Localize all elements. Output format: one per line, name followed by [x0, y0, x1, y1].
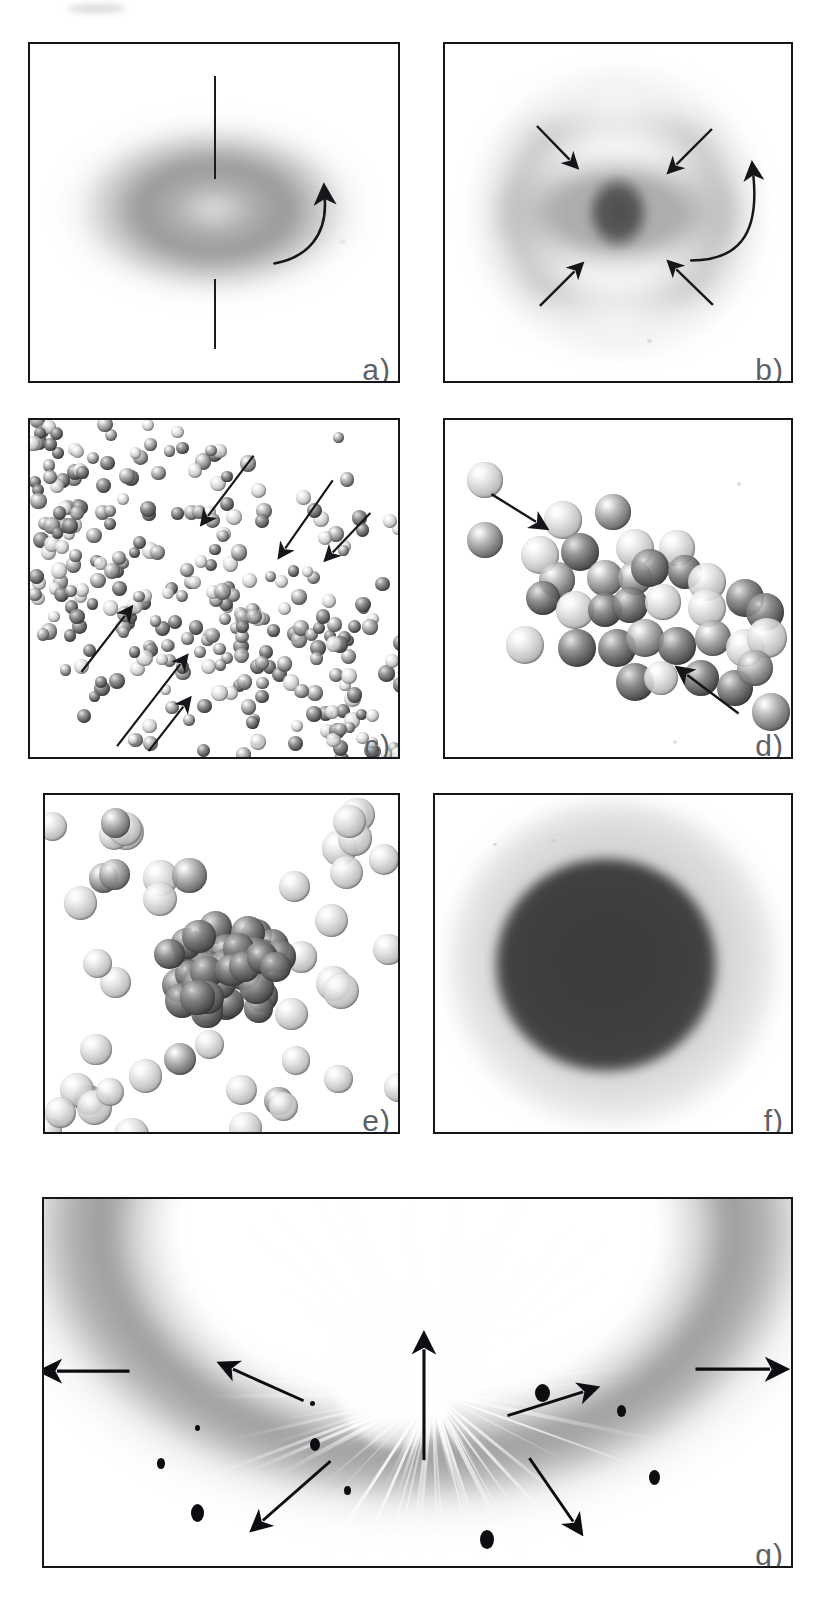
panel-e-label: e) — [362, 1104, 391, 1134]
nucleon-sphere — [211, 685, 227, 701]
emitted-fragment — [617, 1405, 626, 1417]
nucleon-sphere — [366, 709, 379, 722]
print-artifact-smudge — [68, 4, 126, 13]
nucleon-sphere — [362, 619, 378, 635]
nucleon-sphere — [176, 442, 189, 455]
nucleon-sphere — [65, 585, 76, 596]
nucleon-sphere — [255, 656, 269, 670]
inward-arrow-bottom-left — [540, 271, 575, 306]
nucleon-sphere — [277, 656, 293, 672]
panel-a-speck — [340, 240, 346, 244]
emitted-fragments — [44, 1199, 791, 1566]
compound-nucleus-mantle — [487, 145, 750, 280]
panel-b-arrows — [445, 44, 791, 381]
nucleon-sphere — [333, 432, 344, 443]
nucleon-sphere — [181, 632, 193, 644]
nucleon-sphere — [188, 463, 202, 477]
panel-c: c) — [28, 418, 400, 759]
nucleon-sphere — [140, 501, 156, 517]
equilibrated-nucleus-core — [496, 859, 717, 1071]
nucleon-sphere — [165, 701, 179, 715]
nucleon-sphere — [316, 609, 330, 623]
nucleon-sphere — [219, 613, 232, 626]
nucleon-sphere — [393, 635, 398, 651]
nucleon-sphere — [240, 455, 256, 471]
nucleon-sphere — [310, 652, 323, 665]
nucleon-sphere — [338, 545, 349, 556]
nucleon-sphere — [180, 563, 194, 577]
emitted-fragment — [310, 1438, 320, 1451]
nucleon-sphere — [214, 583, 230, 599]
nucleon-sphere — [117, 493, 130, 506]
panel-d: d) — [443, 418, 793, 759]
nucleon-sphere — [60, 664, 71, 675]
nucleon-sphere — [260, 952, 290, 982]
nucleon-sphere — [506, 626, 544, 664]
panel-a: a) — [28, 42, 400, 383]
nucleon-sphere — [89, 691, 100, 702]
emitted-fragment — [480, 1530, 494, 1549]
nucleon-sphere — [355, 597, 371, 613]
nucleon-sphere — [180, 980, 214, 1014]
nucleon-sphere — [109, 673, 125, 689]
nucleon-sphere — [612, 587, 648, 623]
nucleon-sphere — [86, 528, 101, 543]
nucleon-sphere — [151, 466, 166, 481]
nucleon-sphere — [291, 720, 303, 732]
panel-g: g) — [42, 1197, 793, 1568]
nucleon-sphere — [205, 513, 220, 528]
nucleon-sphere — [144, 438, 157, 451]
nucleon-sphere — [737, 650, 774, 687]
nucleon-sphere — [48, 611, 59, 622]
emitted-fragment — [195, 1425, 200, 1431]
nucleon-sphere — [104, 505, 116, 517]
panel-e-canvas — [45, 795, 398, 1132]
nucleon-sphere — [44, 438, 56, 450]
nucleon-sphere — [74, 659, 89, 674]
nucleon-sphere — [43, 470, 56, 483]
nucleon-sphere — [143, 736, 158, 751]
rotation-axis-lower — [214, 279, 216, 349]
nucleon-sphere — [55, 540, 69, 554]
nucleon-sphere — [129, 646, 140, 657]
nucleon-sphere — [104, 518, 115, 529]
panel-b-speck — [647, 339, 652, 343]
nucleon-sphere — [213, 643, 226, 656]
nucleon-sphere — [164, 445, 176, 457]
nucleon-sphere — [236, 747, 252, 757]
nucleon-sphere — [322, 594, 336, 608]
nucleon-sphere — [267, 624, 280, 637]
nucleon-sphere — [288, 736, 303, 751]
panel-f-label: f) — [764, 1104, 784, 1134]
nucleon-sphere — [119, 468, 135, 484]
nucleon-sphere — [242, 573, 257, 588]
nucleon-sphere — [183, 714, 195, 726]
panel-d-canvas — [445, 420, 791, 757]
panel-b-canvas — [445, 44, 791, 381]
nucleon-sphere — [30, 493, 46, 509]
emitted-fragment — [649, 1470, 660, 1485]
nucleon-sphere — [83, 644, 96, 657]
nucleon-sphere — [595, 494, 630, 529]
nucleon-sphere — [75, 583, 89, 597]
emitted-fragment — [535, 1384, 550, 1402]
nucleon-sphere — [255, 690, 269, 704]
nucleon-sphere — [197, 699, 212, 714]
nucleon-sphere — [168, 615, 182, 629]
nucleon-sphere — [201, 659, 216, 674]
nucleon-sphere — [340, 472, 354, 486]
nucleon-sphere — [182, 920, 215, 953]
nucleon-sphere — [130, 447, 142, 459]
nucleon-sphere — [255, 514, 269, 528]
halo-bright-top — [507, 64, 728, 145]
nucleon-sphere — [237, 674, 252, 689]
compound-nucleus-core — [585, 174, 651, 252]
nucleon-sphere — [96, 478, 112, 494]
nucleon-sphere — [176, 660, 189, 673]
nucleon-sphere — [37, 628, 50, 641]
emitted-fragment — [310, 1401, 315, 1406]
panel-f-speck-1 — [493, 843, 497, 846]
emitted-fragment — [191, 1504, 204, 1522]
nucleon-sphere — [234, 648, 249, 663]
nucleon-sphere — [307, 685, 323, 701]
